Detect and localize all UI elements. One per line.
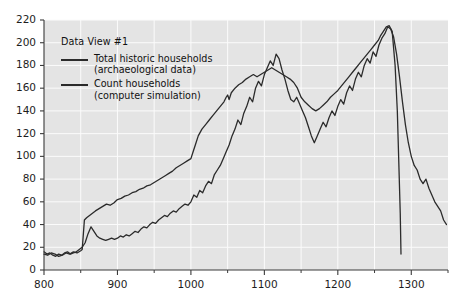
x-tick-1200: 1200 xyxy=(318,278,358,290)
legend-label-simulation-line1: Count households xyxy=(94,78,180,89)
y-tick-60: 60 xyxy=(6,195,36,207)
legend-swatch-simulation xyxy=(61,81,88,90)
x-tick-1000: 1000 xyxy=(171,278,211,290)
y-tick-180: 180 xyxy=(6,58,36,70)
y-tick-80: 80 xyxy=(6,172,36,184)
y-tick-120: 120 xyxy=(6,127,36,139)
y-tick-140: 140 xyxy=(6,104,36,116)
legend-swatch-historic xyxy=(61,56,88,65)
y-tick-160: 160 xyxy=(6,81,36,93)
y-tick-20: 20 xyxy=(6,240,36,252)
legend-item-simulation: Count households (computer simulation) xyxy=(61,78,212,101)
legend-item-historic: Total historic households (archaeologica… xyxy=(61,53,212,76)
x-tick-900: 900 xyxy=(97,278,137,290)
legend-label-historic: Total historic households (archaeologica… xyxy=(94,53,212,76)
y-tick-220: 220 xyxy=(6,13,36,25)
legend-label-simulation: Count households (computer simulation) xyxy=(94,78,201,101)
y-tick-100: 100 xyxy=(6,149,36,161)
y-tick-200: 200 xyxy=(6,36,36,48)
legend-label-simulation-line2: (computer simulation) xyxy=(94,90,201,102)
x-tick-1300: 1300 xyxy=(391,278,431,290)
x-tick-1100: 1100 xyxy=(244,278,284,290)
legend-label-historic-line2: (archaeological data) xyxy=(94,64,212,76)
legend-title: Data View #1 xyxy=(61,36,212,48)
chart-container: 020406080100120140160180200220 800900100… xyxy=(0,0,462,303)
y-tick-40: 40 xyxy=(6,218,36,230)
y-tick-0: 0 xyxy=(6,263,36,275)
chart-legend: Data View #1 Total historic households (… xyxy=(61,36,212,104)
legend-label-historic-line1: Total historic households xyxy=(94,53,212,64)
x-tick-800: 800 xyxy=(24,278,64,290)
